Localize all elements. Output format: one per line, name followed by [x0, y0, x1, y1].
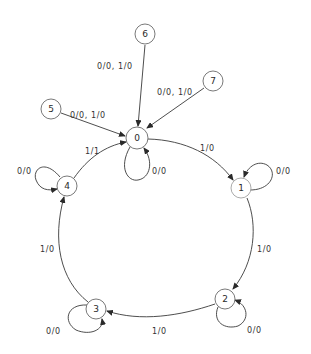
state-2: 2 [215, 289, 235, 309]
state-diagram: 0/0, 1/0 0/0, 1/0 0/0, 1/0 0/0 1/0 0/0 1… [0, 0, 311, 354]
state-7-label: 7 [210, 76, 216, 86]
edge-label-3-3: 0/0 [46, 327, 61, 336]
state-4-label: 4 [64, 181, 70, 191]
state-5-label: 5 [48, 104, 54, 114]
state-5: 5 [41, 99, 61, 119]
edge-label-2-2: 0/0 [247, 326, 262, 335]
edge-label-1-2: 1/0 [257, 245, 272, 254]
edge-label-5-0: 0/0, 1/0 [70, 111, 106, 120]
edge-label-4-0: 1/1 [85, 147, 100, 156]
edge-3-to-4 [59, 197, 88, 302]
edge-label-4-4: 0/0 [17, 167, 32, 176]
state-1: 1 [231, 178, 251, 198]
state-6-label: 6 [142, 29, 148, 39]
edge-4-to-0 [74, 142, 126, 178]
state-1-label: 1 [238, 183, 244, 193]
edge-label-7-0: 0/0, 1/0 [157, 88, 193, 97]
edge-label-2-3: 1/0 [152, 327, 167, 336]
state-4: 4 [57, 176, 77, 196]
state-6: 6 [135, 24, 155, 44]
state-7: 7 [203, 71, 223, 91]
edge-0-self-loop [125, 147, 150, 180]
state-3-label: 3 [93, 304, 99, 314]
edge-label-0-0: 0/0 [152, 167, 167, 176]
edge-label-0-1: 1/0 [200, 144, 215, 153]
state-3: 3 [86, 299, 106, 319]
edge-label-6-0: 0/0, 1/0 [97, 62, 133, 71]
edge-label-3-4: 1/0 [40, 245, 55, 254]
edge-2-to-3 [107, 304, 215, 317]
state-0-label: 0 [134, 133, 140, 143]
edge-label-1-1: 0/0 [276, 167, 291, 176]
edge-1-to-2 [233, 198, 253, 289]
edge-4-self-loop [35, 167, 60, 190]
state-2-label: 2 [222, 294, 228, 304]
edge-6-to-0 [138, 45, 145, 126]
state-0: 0 [126, 127, 148, 149]
